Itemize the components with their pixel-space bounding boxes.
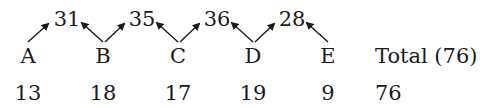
arrow-a-to-sum1 xyxy=(28,24,48,42)
node-label-b: B xyxy=(95,46,110,67)
pair-sum-de: 28 xyxy=(279,9,306,30)
node-value-c: 17 xyxy=(165,83,192,104)
total-value: 76 xyxy=(375,83,402,104)
node-label-a: A xyxy=(20,46,35,67)
node-value-a: 13 xyxy=(15,83,42,104)
node-value-b: 18 xyxy=(90,83,117,104)
node-label-c: C xyxy=(170,46,186,67)
arrow-b-to-sum1 xyxy=(82,23,103,42)
node-label-e: E xyxy=(320,46,335,67)
node-value-d: 19 xyxy=(240,83,267,104)
pair-sum-cd: 36 xyxy=(204,9,231,30)
arrow-b-to-sum2 xyxy=(105,24,124,42)
arrow-d-to-sum3 xyxy=(232,23,253,42)
arrow-c-to-sum3 xyxy=(180,24,199,42)
arrow-e-to-sum4 xyxy=(307,23,328,42)
total-label: Total (76) xyxy=(375,46,477,67)
arrow-d-to-sum4 xyxy=(255,24,274,42)
node-label-d: D xyxy=(245,46,262,67)
arrow-c-to-sum2 xyxy=(157,23,178,42)
node-value-e: 9 xyxy=(321,83,334,104)
pair-sum-bc: 35 xyxy=(129,9,156,30)
pair-sum-ab: 31 xyxy=(54,9,81,30)
